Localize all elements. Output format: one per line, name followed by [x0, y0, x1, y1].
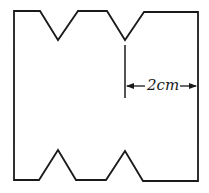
diagram-canvas: [0, 0, 209, 193]
shape-outline: [14, 11, 198, 181]
arrowhead-right-icon: [189, 83, 197, 89]
dimension-label: 2cm: [146, 76, 180, 94]
arrowhead-left-icon: [126, 83, 134, 89]
